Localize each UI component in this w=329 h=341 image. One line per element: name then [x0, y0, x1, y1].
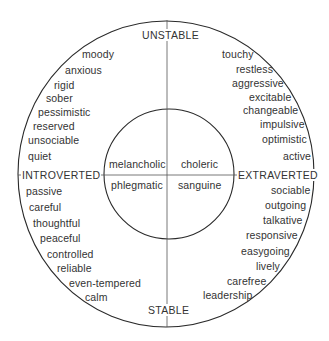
trait-pessimistic: pessimistic — [38, 106, 90, 118]
trait-carefree: carefree — [227, 275, 266, 287]
trait-even-tempered: even-tempered — [69, 277, 141, 289]
trait-optimistic: optimistic — [262, 133, 307, 145]
trait-quiet: quiet — [28, 150, 51, 162]
trait-careful: careful — [29, 201, 61, 213]
trait-sober: sober — [46, 92, 73, 104]
axis-label-stable: STABLE — [147, 304, 190, 316]
axis-label-unstable: UNSTABLE — [141, 29, 200, 41]
trait-passive: passive — [26, 185, 62, 197]
trait-reliable: reliable — [57, 262, 92, 274]
trait-impulsive: impulsive — [260, 118, 305, 130]
trait-outgoing: outgoing — [265, 199, 306, 211]
trait-excitable: excitable — [249, 91, 291, 103]
trait-unsociable: unsociable — [28, 134, 79, 146]
trait-rigid: rigid — [54, 79, 74, 91]
trait-touchy: touchy — [222, 48, 254, 60]
temperament-choleric: choleric — [181, 158, 218, 170]
trait-moody: moody — [82, 48, 114, 60]
trait-restless: restless — [236, 63, 273, 75]
trait-thoughtful: thoughtful — [33, 217, 80, 229]
trait-aggressive: aggressive — [232, 77, 284, 89]
trait-controlled: controlled — [47, 248, 94, 260]
trait-lively: lively — [256, 260, 280, 272]
trait-calm: calm — [85, 291, 108, 303]
trait-easygoing: easygoing — [241, 245, 290, 257]
trait-talkative: talkative — [263, 214, 302, 226]
trait-active: active — [283, 150, 311, 162]
trait-reserved: reserved — [33, 120, 75, 132]
trait-changeable: changeable — [243, 104, 298, 116]
temperament-melancholic: melancholic — [109, 158, 166, 170]
axis-label-extraverted: EXTRAVERTED — [237, 169, 319, 181]
trait-responsive: responsive — [246, 229, 298, 241]
temperament-diagram: UNSTABLE STABLE INTROVERTED EXTRAVERTED … — [0, 0, 329, 341]
trait-anxious: anxious — [65, 64, 102, 76]
trait-sociable: sociable — [271, 184, 310, 196]
temperament-phlegmatic: phlegmatic — [111, 179, 163, 191]
trait-leadership: leadership — [203, 289, 252, 301]
temperament-sanguine: sanguine — [178, 179, 221, 191]
axis-label-introverted: INTROVERTED — [21, 169, 101, 181]
inner-circle — [104, 109, 234, 239]
trait-peaceful: peaceful — [40, 232, 81, 244]
